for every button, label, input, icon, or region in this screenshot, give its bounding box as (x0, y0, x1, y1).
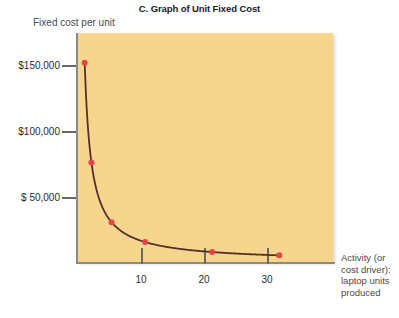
y-tick-label: $100,000 (18, 126, 60, 137)
x-tick-mark-30 (267, 248, 269, 264)
x-tick-label: 20 (189, 274, 219, 285)
x-axis-caption-line: cost driver): (341, 264, 399, 276)
y-tick-group-150000: $150,000 (0, 60, 60, 72)
x-tick-mark-20 (204, 248, 206, 264)
page-title: C. Graph of Unit Fixed Cost (0, 3, 399, 14)
x-tick-mark-10 (141, 248, 143, 264)
y-axis-line (76, 33, 78, 264)
x-tick-label: 30 (252, 274, 282, 285)
x-tick-label: 10 (126, 274, 156, 285)
y-tick-mark-100000 (62, 131, 76, 133)
y-tick-label: $ 50,000 (21, 192, 60, 203)
y-tick-group-100000: $100,000 (0, 126, 60, 138)
chart-page: C. Graph of Unit Fixed Cost Fixed cost p… (0, 0, 399, 318)
plot-area (78, 33, 333, 262)
y-tick-group-50000: $ 50,000 (0, 192, 60, 204)
x-axis-caption-line: produced (341, 287, 399, 299)
x-axis-caption-line: laptop units (341, 275, 399, 287)
y-tick-label: $150,000 (18, 60, 60, 71)
x-axis-caption: Activity (or cost driver): laptop units … (341, 252, 399, 298)
y-tick-mark-50000 (62, 197, 76, 199)
x-axis-caption-line: Activity (or (341, 252, 399, 264)
y-tick-mark-150000 (62, 65, 76, 67)
x-axis-line (76, 262, 335, 264)
y-axis-caption: Fixed cost per unit (33, 17, 115, 28)
